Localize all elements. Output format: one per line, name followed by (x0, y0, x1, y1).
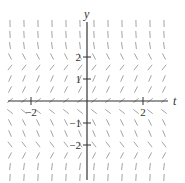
slope-segment (149, 130, 152, 136)
y-axis-label: y (83, 7, 90, 21)
slope-segment (8, 65, 12, 71)
slope-segment (92, 86, 95, 92)
slope-segment (23, 130, 26, 136)
slope-segment (66, 42, 67, 49)
slope-segment (133, 109, 139, 113)
slope-segment (64, 65, 68, 71)
slope-segment (78, 152, 81, 158)
slope-segment (105, 109, 111, 113)
slope-segment (22, 53, 25, 59)
slope-segment (80, 42, 81, 49)
slope-segment (136, 42, 137, 49)
slope-segment (91, 109, 97, 113)
slope-segment (79, 130, 82, 136)
slope-segment (10, 42, 11, 49)
slope-segment (38, 42, 39, 49)
slope-segment (22, 152, 25, 158)
slope-segment (52, 42, 53, 49)
slope-segment (162, 65, 166, 71)
slope-segment (92, 65, 96, 71)
slope-segment (135, 130, 138, 136)
slope-segment (64, 86, 67, 92)
slope-segment (50, 86, 53, 92)
slope-segment (64, 142, 68, 148)
slope-segment (150, 163, 151, 170)
slope-segment (107, 130, 110, 136)
slope-segment (92, 119, 95, 125)
slope-segment (77, 109, 83, 113)
slope-segment (148, 65, 152, 71)
y-tick-label: 1 (76, 73, 82, 85)
slope-segment (22, 142, 26, 148)
slope-segment (120, 152, 123, 158)
slope-segment (80, 163, 81, 170)
slope-segment (51, 75, 54, 81)
t-tick-label: 2 (140, 106, 146, 118)
slope-segment (8, 119, 11, 125)
slope-segment (50, 142, 54, 148)
slope-segment (108, 163, 109, 170)
slope-segment (134, 65, 138, 71)
slope-segment (136, 163, 137, 170)
slope-segment (122, 163, 123, 170)
slope-segment (162, 86, 165, 92)
slope-segment (36, 119, 39, 125)
slope-segment (148, 53, 151, 59)
slope-segment (148, 152, 151, 158)
slope-segment (120, 65, 124, 71)
y-tick-label: −2 (69, 139, 81, 151)
slope-segment (120, 142, 124, 148)
slope-segment (36, 142, 40, 148)
slope-segment (24, 163, 25, 170)
slope-segment (162, 142, 166, 148)
slope-segment (64, 119, 67, 125)
slope-segment (37, 130, 40, 136)
slope-segment (122, 42, 123, 49)
slope-segment (24, 42, 25, 49)
t-axis-label: t (173, 94, 177, 108)
slope-segment (106, 142, 110, 148)
slope-segment (148, 119, 151, 125)
slope-segment (50, 119, 53, 125)
slope-segment (49, 109, 55, 113)
slope-segment (149, 75, 152, 81)
slope-segment (8, 152, 11, 158)
slope-segment (147, 109, 153, 113)
slope-field-plot: −2221−1−2 t y (0, 0, 185, 183)
slope-segment (78, 65, 82, 71)
slope-segment (78, 86, 81, 92)
slope-segment (64, 152, 67, 158)
slope-segment (108, 42, 109, 49)
slope-segment (38, 163, 39, 170)
slope-segment (52, 163, 53, 170)
slope-segment (121, 75, 124, 81)
slope-segment (106, 152, 109, 158)
slope-segment (164, 163, 165, 170)
slope-segment (36, 152, 39, 158)
slope-segment (7, 109, 13, 113)
slope-segment (8, 142, 12, 148)
slope-segment (119, 109, 125, 113)
slope-segment (106, 119, 109, 125)
slope-segment (134, 86, 137, 92)
slope-segment (161, 109, 167, 113)
slope-segment (121, 130, 124, 136)
slope-segment (120, 119, 123, 125)
slope-segment (120, 86, 123, 92)
slope-segment (163, 75, 166, 81)
slope-segment (10, 163, 11, 170)
slope-segment (134, 152, 137, 158)
slope-segment (64, 53, 67, 59)
slope-segment (9, 75, 12, 81)
slope-segment (22, 86, 25, 92)
slope-segment (65, 75, 68, 81)
slope-segment (22, 119, 25, 125)
slope-segment (92, 142, 96, 148)
slope-segment (8, 53, 11, 59)
slope-segment (51, 130, 54, 136)
slope-segment (106, 86, 109, 92)
slope-segment (134, 53, 137, 59)
slope-segment (93, 130, 96, 136)
slope-segment (150, 42, 151, 49)
slope-segment (92, 152, 95, 158)
